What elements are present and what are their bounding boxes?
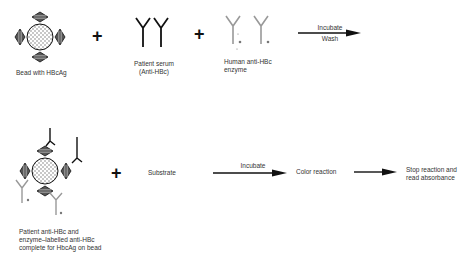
plus-sign: + <box>111 164 122 182</box>
diagram-canvas <box>0 0 476 263</box>
stop-reaction-label: Stop reaction and read absorbance <box>406 166 457 182</box>
incubate-arrow <box>213 170 287 177</box>
color-reaction-label: Color reaction <box>296 168 336 176</box>
substrate-label: Substrate <box>148 169 176 177</box>
bead-label: Bead with HBcAg <box>16 69 67 77</box>
color-reaction-arrow <box>354 169 397 176</box>
patient-serum-label: Patient serum (Anti-HBc) <box>130 60 178 76</box>
complex-label: Patient anti-HBc and enzyme–labelled ant… <box>19 228 101 252</box>
enzyme-marker-icon <box>236 33 269 49</box>
enzyme-antibody-label: Human anti-HBc enzyme <box>224 58 272 74</box>
bead-with-antigen-icon <box>15 12 65 62</box>
plus-sign: + <box>194 25 205 43</box>
wash-label: Wash <box>302 35 358 43</box>
bead-antibody-complex-icon <box>16 128 82 215</box>
enzyme-antibody-icon <box>226 16 268 44</box>
incubate-label: Incubate <box>226 162 280 170</box>
plus-sign: + <box>92 27 103 45</box>
patient-antibody-icon <box>136 18 168 47</box>
incubate-label: Incubate <box>302 24 358 32</box>
